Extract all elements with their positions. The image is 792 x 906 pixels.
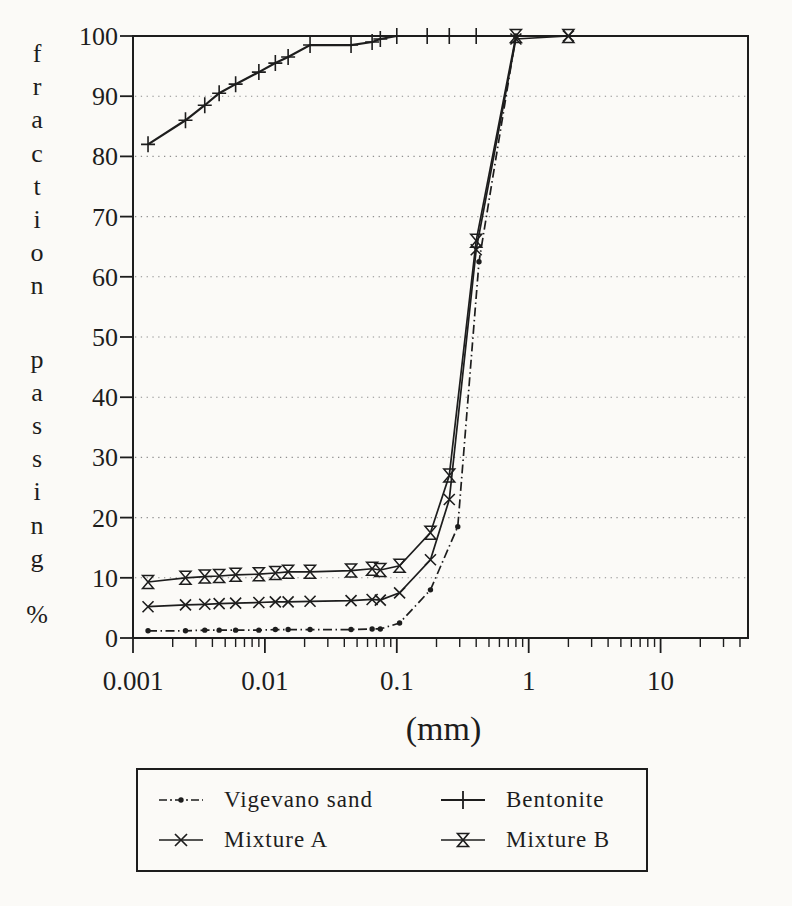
x-marker-icon (158, 828, 204, 852)
plus-marker (303, 37, 317, 53)
plus-marker (390, 28, 404, 44)
y-axis-label-letter: t (33, 172, 41, 201)
y-tick-label: 90 (92, 82, 118, 111)
dot-marker (273, 627, 278, 632)
dot-marker (285, 627, 290, 632)
dot-marker (145, 628, 150, 633)
plus-marker (469, 28, 483, 44)
x-marker (394, 587, 405, 598)
x-tick-label: 0.001 (103, 666, 164, 696)
plus-marker (178, 112, 192, 128)
dot-marker (307, 627, 312, 632)
dot-marker (348, 627, 353, 632)
plus-marker (198, 97, 212, 113)
x-tick-label: 0.01 (241, 666, 288, 696)
legend-label: Mixture A (224, 827, 328, 853)
legend-entry-mixture-b: Mixture B (440, 827, 646, 853)
y-axis-label-letter: a (31, 378, 43, 407)
legend-label: Vigevano sand (224, 787, 373, 813)
x-tick-label: 1 (522, 666, 536, 696)
plus-marker (268, 55, 282, 71)
x-marker (425, 554, 436, 565)
y-tick-label: 50 (92, 323, 118, 352)
y-tick-label: 80 (92, 142, 118, 171)
dot-marker (378, 626, 383, 631)
y-axis-label-letter: g (31, 544, 44, 573)
hourglass-marker-icon (440, 828, 486, 852)
y-axis-label-letter: s (32, 411, 42, 440)
series-line-mixture-a (148, 36, 568, 607)
y-axis-label-letter: n (31, 271, 44, 300)
y-axis-label-letter: n (31, 511, 44, 540)
x-tick-label: 10 (647, 666, 674, 696)
hourglass-marker (425, 526, 436, 539)
y-axis-label-letter: i (33, 205, 40, 234)
dot-marker (455, 524, 460, 529)
plus-marker (344, 37, 358, 53)
plus-marker-icon (440, 788, 486, 812)
scanned-grain-size-figure: 01020304050607080901000.0010.010.1110(mm… (0, 0, 792, 906)
y-axis-label-letter: p (31, 345, 44, 374)
y-tick-label: 40 (92, 383, 118, 412)
x-axis-label: (mm) (406, 710, 482, 748)
series-line-mixture-b (148, 36, 568, 582)
dot-marker (178, 797, 183, 802)
legend-entry-vigevano-sand: Vigevano sand (158, 787, 440, 813)
dot-marker-icon (158, 788, 204, 812)
dot-marker (216, 627, 221, 632)
dot-marker (476, 259, 481, 264)
dot-marker (369, 626, 374, 631)
series-line-bentonite (148, 36, 476, 144)
legend-entry-mixture-a: Mixture A (158, 827, 440, 853)
plus-marker (420, 28, 434, 44)
y-tick-label: 30 (92, 443, 118, 472)
plus-marker (212, 85, 226, 101)
x-tick-label: 0.1 (380, 666, 414, 696)
y-tick-label: 100 (79, 22, 118, 51)
plus-marker (252, 64, 266, 80)
plus-marker (373, 31, 387, 47)
dot-marker (397, 620, 402, 625)
y-tick-label: 70 (92, 203, 118, 232)
y-tick-label: 60 (92, 263, 118, 292)
y-axis-label-letter: c (31, 139, 43, 168)
y-tick-label: 20 (92, 504, 118, 533)
y-axis-label-letter: a (31, 105, 43, 134)
y-axis-label-letter: % (26, 600, 48, 629)
plus-marker (141, 136, 155, 152)
y-axis-label-letter: r (33, 72, 42, 101)
y-axis-label-letter: i (33, 477, 40, 506)
series-line-vigevano-sand (148, 36, 516, 631)
y-tick-label: 10 (92, 564, 118, 593)
dot-marker (233, 627, 238, 632)
legend-label: Bentonite (506, 787, 604, 813)
plus-marker (442, 28, 456, 44)
y-axis-label-letter: o (31, 238, 44, 267)
plus-marker (281, 49, 295, 65)
dot-marker (183, 628, 188, 633)
y-tick-label: 0 (105, 624, 118, 653)
y-axis-label-letter: f (33, 39, 42, 68)
plot-frame (133, 36, 748, 638)
y-axis-label-letter: s (32, 444, 42, 473)
legend: Vigevano sand Bentonite Mixture A Mixtur… (136, 768, 648, 872)
dot-marker (202, 627, 207, 632)
plus-marker (229, 76, 243, 92)
grain-size-distribution-chart: 01020304050607080901000.0010.010.1110(mm… (0, 0, 792, 760)
dot-marker (428, 587, 433, 592)
dot-marker (256, 627, 261, 632)
legend-label: Mixture B (506, 827, 610, 853)
legend-entry-bentonite: Bentonite (440, 787, 646, 813)
plus-marker (455, 791, 471, 809)
